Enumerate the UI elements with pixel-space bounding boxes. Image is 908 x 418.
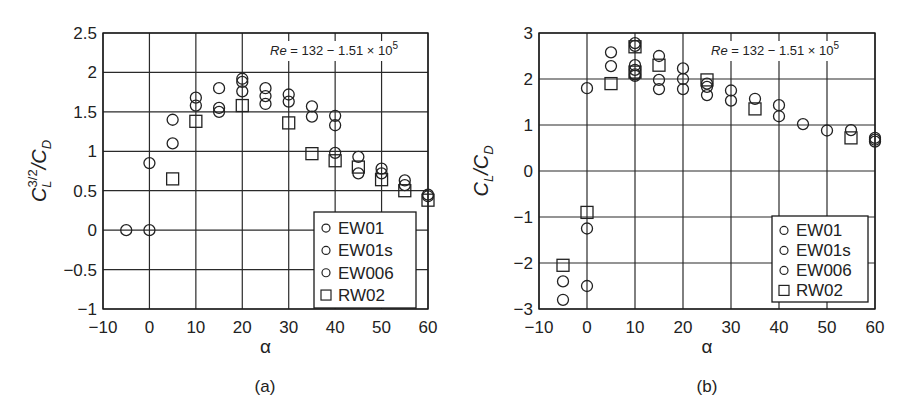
x-tick-label: 30: [722, 318, 741, 337]
y-axis-label: CL/CD: [470, 145, 496, 196]
x-axis-label: α: [260, 336, 271, 357]
data-points: [121, 73, 434, 235]
x-tick-label: 40: [326, 318, 345, 337]
circle-marker: [558, 276, 569, 287]
y-tick-label: 1: [524, 116, 533, 135]
y-tick-label: −1: [78, 300, 97, 319]
x-tick-label: 10: [626, 318, 645, 337]
circle-marker: [702, 90, 713, 101]
circle-marker: [167, 138, 178, 149]
circle-marker: [798, 119, 809, 130]
legend-label: EW01s: [338, 241, 393, 260]
x-tick-label: 50: [372, 318, 391, 337]
circle-marker: [606, 61, 617, 72]
y-tick-label: −0.5: [63, 261, 97, 280]
y-tick-label: −3: [514, 300, 533, 319]
y-tick-label: 0.5: [73, 182, 97, 201]
y-tick-label: 0: [88, 221, 97, 240]
legend-label: EW006: [796, 261, 852, 280]
legend-label: EW01s: [796, 241, 851, 260]
circle-marker: [606, 47, 617, 58]
y-tick-label: −1: [514, 208, 533, 227]
circle-marker: [260, 98, 271, 109]
circle-marker: [214, 83, 225, 94]
y-tick-label: 0: [524, 162, 533, 181]
x-tick-label: −10: [525, 318, 554, 337]
x-tick-label: 20: [233, 318, 252, 337]
legend-label: EW01: [796, 221, 842, 240]
legend-label: EW006: [338, 264, 394, 283]
chart-b: −1001020304050603210−1−2−3αCL/CD(b)Re = …: [470, 24, 884, 396]
circle-marker: [167, 114, 178, 125]
circle-marker: [306, 111, 317, 122]
square-marker: [167, 173, 179, 185]
figure: −1001020304050602.521.510.50−0.5−1αCL3/2…: [0, 0, 908, 418]
legend-label: RW02: [796, 281, 843, 300]
circle-marker: [558, 294, 569, 305]
x-tick-label: −10: [89, 318, 118, 337]
x-tick-label: 50: [818, 318, 837, 337]
x-tick-label: 0: [582, 318, 591, 337]
y-tick-label: −2: [514, 254, 533, 273]
y-tick-label: 1: [88, 142, 97, 161]
square-marker: [557, 259, 569, 271]
reynolds-annotation: Re = 132 − 1.51 × 105: [270, 40, 399, 58]
x-tick-label: 0: [145, 318, 154, 337]
x-tick-label: 40: [770, 318, 789, 337]
x-tick-label: 30: [279, 318, 298, 337]
x-tick-label: 10: [186, 318, 205, 337]
x-tick-label: 20: [674, 318, 693, 337]
legend-label: RW02: [338, 286, 385, 305]
legend: EW01EW01sEW006RW02: [772, 216, 868, 302]
x-tick-label: 60: [419, 318, 438, 337]
legend-label: EW01: [338, 219, 384, 238]
circle-marker: [654, 51, 665, 62]
circle-marker: [846, 125, 857, 136]
y-tick-label: 2: [524, 70, 533, 89]
figure-caption: (a): [255, 377, 276, 396]
y-tick-label: 2.5: [73, 24, 97, 43]
square-marker: [306, 148, 318, 160]
x-tick-label: 60: [866, 318, 885, 337]
circle-marker: [306, 101, 317, 112]
x-axis-label: α: [702, 336, 713, 357]
y-tick-label: 2: [88, 63, 97, 82]
y-tick-label: 1.5: [73, 103, 97, 122]
y-tick-label: 3: [524, 24, 533, 43]
figure-caption: (b): [697, 377, 718, 396]
chart-a: −1001020304050602.521.510.50−0.5−1αCL3/2…: [25, 24, 437, 396]
reynolds-annotation: Re = 132 − 1.51 × 105: [711, 40, 840, 58]
y-axis-label: CL3/2/CD: [25, 140, 54, 202]
legend: EW01EW01sEW006RW02: [314, 212, 416, 308]
